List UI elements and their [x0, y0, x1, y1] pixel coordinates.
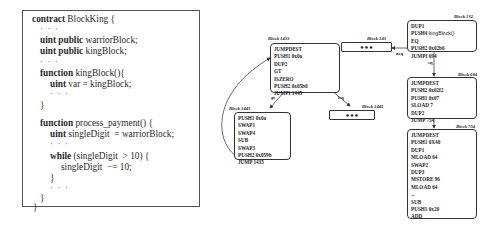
block-1443-label: Block 1443 [229, 106, 250, 111]
instruction: SLOAD 7 [411, 102, 473, 109]
code-line-king-block: uint public kingBlock; [40, 46, 127, 56]
instruction: JUMPI 1445 [274, 90, 336, 97]
instruction: SWAP3 [238, 145, 287, 152]
code-ellipsis: · · · [50, 139, 69, 149]
code-line-uint-single-digit: uint singleDigit = warriorBlock; [50, 129, 174, 139]
keyword: function [40, 68, 73, 78]
keyword: while [50, 151, 71, 161]
instruction: SWAP1 [238, 122, 287, 129]
edge-label-eq: eq [428, 60, 433, 65]
block-132-label: Block 132 [454, 14, 473, 19]
block-143-label: Block 143 [367, 36, 386, 41]
instruction: DUP1 [411, 147, 473, 154]
instruction: ... [411, 221, 473, 225]
code-line-uint-var: uint var = kingBlock; [50, 79, 131, 89]
instruction: PUSH1 0x0a [274, 53, 336, 60]
code-text: warriorBlock; [83, 35, 137, 45]
code-line-while: while (singleDigit > 10) { [50, 151, 149, 161]
keyword: function [40, 118, 73, 128]
block-754: JUMPDEST PUSH1 0X40 DUP1 MLOAD 64 SWAP2 … [407, 129, 477, 219]
code-line-function-kingblock: function kingBlock(){ [40, 68, 125, 78]
instruction: JUMPDEST [411, 80, 473, 87]
keyword: uint public [40, 35, 83, 45]
keyword: contract [32, 14, 65, 24]
block-132: DUP1 PUSH4 kingBlock() EQ PUSH2 0x02b6 J… [407, 20, 477, 52]
instruction: PUSH4 kingBlock() [411, 30, 473, 37]
instruction: DUP2 [274, 61, 336, 68]
instruction: PUSH2 0x05b0 [274, 83, 336, 90]
block-143: ••• [341, 42, 392, 52]
block-1445-label: Block 1445 [362, 104, 383, 109]
edge-label-neq: neq [396, 51, 403, 56]
instruction: SWAP2 [411, 162, 473, 169]
instruction: JUMPDEST [274, 46, 336, 53]
instruction: ISZERO [274, 76, 336, 83]
block-1433: JUMPDEST PUSH1 0x0a DUP2 GT ISZERO PUSH2… [270, 43, 340, 93]
block-694: JUMPDEST PUSH2 0x02f2 PUSH1 0x07 SLOAD 7… [407, 77, 477, 119]
code-ellipsis: · · · [40, 57, 59, 67]
code-line-decrement: singleDigit −= 10; [61, 162, 132, 172]
block-1443: PUSH1 0x0a SWAP1 SWAP4 SUB SWAP3 PUSH2 0… [234, 112, 291, 160]
code-text: var = kingBlock; [66, 79, 131, 89]
instruction: SUB [411, 199, 473, 206]
edge-label-leq: leq [338, 95, 344, 100]
instruction: ADD [411, 213, 473, 220]
keyword: uint [50, 129, 66, 139]
code-text: singleDigit = warriorBlock; [66, 129, 174, 139]
code-line-close-brace: } [40, 193, 44, 203]
instruction: JUMP 1435 [238, 159, 287, 166]
code-text: kingBlock; [83, 46, 127, 56]
code-text: process_payment() { [73, 118, 153, 128]
instruction: DUP2 [411, 110, 473, 117]
keyword: uint public [40, 46, 83, 56]
instruction: PUSH2 0x02f2 [411, 87, 473, 94]
instruction: MSTORE 96 [411, 176, 473, 183]
instruction: JUMPI 694 [411, 53, 473, 60]
instruction: SWAP4 [238, 130, 287, 137]
code-text: kingBlock(){ [73, 68, 125, 78]
instruction: PUSH1 0x20 [411, 206, 473, 213]
instruction: DUP1 [411, 23, 473, 30]
code-line-contract: contract BlockKing { [32, 14, 115, 24]
instruction: GT [274, 68, 336, 75]
instruction: DUP3 [411, 169, 473, 176]
code-ellipsis: · · · [50, 183, 69, 193]
instruction: SUB [238, 137, 287, 144]
instruction: ... [411, 191, 473, 198]
instruction: EQ [411, 38, 473, 45]
code-line-close-brace: } [50, 173, 54, 183]
code-line-close-brace: } [40, 100, 44, 110]
code-text: (singleDigit > 10) { [71, 151, 149, 161]
instruction: PUSH1 0X40 [411, 139, 473, 146]
code-line-function-process-payment: function process_payment() { [40, 118, 153, 128]
edge-label-gt: gt [271, 95, 275, 100]
function-selector: kingBlock() [429, 30, 455, 36]
code-line-close-brace: } [33, 202, 37, 212]
code-line-warrior-block: uint public warriorBlock; [40, 35, 138, 45]
instruction: PUSH1 0x07 [411, 95, 473, 102]
instruction: PUSH2 0x059b [238, 152, 287, 159]
instruction: MLOAD 64 [411, 184, 473, 191]
instruction: PUSH2 0x02b6 [411, 45, 473, 52]
code-ellipsis: · · · [40, 24, 59, 34]
instruction: PUSH1 0x0a [238, 115, 287, 122]
code-ellipsis: · · · [50, 89, 69, 99]
instruction: JUMPDEST [411, 132, 473, 139]
code-text: BlockKing { [65, 14, 115, 24]
instruction: MLOAD 64 [411, 154, 473, 161]
opcode: PUSH4 [411, 30, 427, 36]
keyword: uint [50, 79, 66, 89]
block-1433-label: Block 1433 [268, 36, 289, 41]
block-1445: ••• [329, 110, 375, 120]
